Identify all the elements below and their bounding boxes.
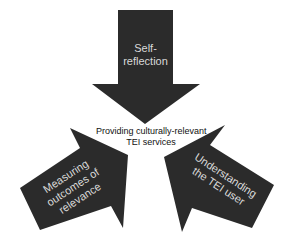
diagram-canvas: Self- reflection Providing culturally-re… bbox=[0, 0, 286, 248]
top-arrow-line1: Self- bbox=[118, 42, 173, 55]
center-label: Providing culturally-relevant TEI servic… bbox=[96, 126, 206, 148]
top-arrow-line2: reflection bbox=[118, 55, 173, 68]
top-arrow-label: Self- reflection bbox=[118, 42, 173, 68]
center-label-line2: TEI services bbox=[96, 137, 206, 148]
center-label-line1: Providing culturally-relevant bbox=[96, 126, 206, 137]
